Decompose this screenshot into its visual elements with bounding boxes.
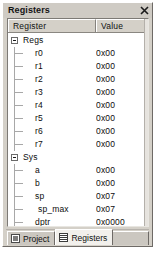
register-row[interactable]: dptr0x0000 bbox=[8, 216, 148, 226]
register-name-cell: r3 bbox=[8, 86, 96, 99]
tab-project-label: Project bbox=[23, 234, 49, 244]
register-name-cell: a bbox=[8, 164, 96, 177]
register-row[interactable]: r00x00 bbox=[8, 47, 148, 60]
register-name-label: a bbox=[35, 164, 40, 177]
tab-registers-label: Registers bbox=[71, 233, 107, 243]
register-row[interactable]: Regs bbox=[8, 34, 148, 47]
register-row[interactable]: a0x00 bbox=[8, 164, 148, 177]
tree-stub-line bbox=[14, 66, 23, 67]
register-row[interactable]: r30x00 bbox=[8, 86, 148, 99]
register-value-cell[interactable]: 0x00 bbox=[96, 86, 148, 99]
register-row[interactable]: r50x00 bbox=[8, 112, 148, 125]
register-name-cell: dptr bbox=[8, 216, 96, 226]
register-row[interactable]: sp_max0x07 bbox=[8, 203, 148, 216]
tree-stub-line bbox=[14, 53, 23, 54]
register-name-label: r4 bbox=[35, 99, 43, 112]
register-name-cell: Sys bbox=[8, 151, 96, 164]
register-name-cell: r1 bbox=[8, 60, 96, 73]
registers-grid: Register Value Regsr00x00r10x00r20x00r30… bbox=[7, 18, 149, 227]
register-value-cell[interactable]: 0x0000 bbox=[96, 216, 148, 226]
panel-tabstrip: Project Registers bbox=[3, 227, 152, 246]
register-row[interactable]: sp0x07 bbox=[8, 190, 148, 203]
panel-title: Registers bbox=[8, 5, 50, 16]
register-name-label: r1 bbox=[35, 60, 43, 73]
register-name-label: Regs bbox=[23, 34, 43, 47]
register-name-label: Sys bbox=[23, 151, 38, 164]
register-name-cell: b bbox=[8, 177, 96, 190]
tree-stub-line bbox=[14, 105, 23, 106]
tree-stub-line bbox=[14, 222, 23, 223]
register-name-cell: r7 bbox=[8, 138, 96, 151]
register-name-cell: r6 bbox=[8, 125, 96, 138]
register-name-label: sp bbox=[35, 190, 44, 203]
register-value-cell[interactable]: 0x07 bbox=[96, 203, 148, 216]
tree-stub-line bbox=[14, 144, 23, 145]
tab-project[interactable]: Project bbox=[7, 231, 55, 245]
vertical-scrollbar[interactable] bbox=[144, 19, 148, 226]
tree-stub-line bbox=[14, 79, 23, 80]
register-name-label: dptr bbox=[35, 216, 50, 226]
minus-box-icon[interactable] bbox=[11, 154, 18, 161]
tree-trunk-line bbox=[14, 216, 15, 226]
tree-stub-line bbox=[14, 92, 23, 93]
register-name-label: b bbox=[35, 177, 40, 190]
register-value-cell[interactable]: 0x00 bbox=[96, 99, 148, 112]
tree-stub-line bbox=[14, 209, 23, 210]
register-name-cell: r5 bbox=[8, 112, 96, 125]
register-name-label: r6 bbox=[35, 125, 43, 138]
panel-titlebar: Registers bbox=[3, 3, 152, 18]
project-window-icon bbox=[11, 234, 20, 243]
tree-stub-line bbox=[14, 183, 23, 184]
column-header-register[interactable]: Register bbox=[8, 19, 96, 32]
tabstrip-filler bbox=[113, 231, 149, 245]
tree-stub-line bbox=[14, 170, 23, 171]
register-name-label: r2 bbox=[35, 73, 43, 86]
register-value-cell[interactable]: 0x07 bbox=[96, 190, 148, 203]
close-icon[interactable] bbox=[138, 5, 150, 17]
register-row[interactable]: r10x00 bbox=[8, 60, 148, 73]
register-row[interactable]: r70x00 bbox=[8, 138, 148, 151]
register-name-label: sp_max bbox=[38, 203, 69, 216]
register-row[interactable]: r20x00 bbox=[8, 73, 148, 86]
register-value-cell[interactable]: 0x00 bbox=[96, 60, 148, 73]
tab-registers[interactable]: Registers bbox=[55, 229, 113, 245]
register-name-cell: r4 bbox=[8, 99, 96, 112]
register-name-label: r7 bbox=[35, 138, 43, 151]
grid-rows: Regsr00x00r10x00r20x00r30x00r40x00r50x00… bbox=[8, 33, 148, 226]
grid-header-row: Register Value bbox=[8, 19, 148, 33]
register-row[interactable]: Sys bbox=[8, 151, 148, 164]
tree-stub-line bbox=[14, 131, 23, 132]
register-name-cell: r2 bbox=[8, 73, 96, 86]
register-row[interactable]: r40x00 bbox=[8, 99, 148, 112]
registers-panel-window: Registers Register Value Regsr00x00r10x0… bbox=[2, 2, 153, 247]
register-value-cell[interactable]: 0x00 bbox=[96, 177, 148, 190]
register-name-cell: Regs bbox=[8, 34, 96, 47]
register-value-cell[interactable]: 0x00 bbox=[96, 47, 148, 60]
register-value-cell[interactable]: 0x00 bbox=[96, 138, 148, 151]
register-name-cell: sp bbox=[8, 190, 96, 203]
registers-grid-icon bbox=[59, 233, 68, 242]
tree-stub-line bbox=[14, 118, 23, 119]
tree-stub-line bbox=[14, 196, 23, 197]
register-value-cell[interactable]: 0x00 bbox=[96, 164, 148, 177]
register-name-cell: sp_max bbox=[8, 203, 96, 216]
register-row[interactable]: r60x00 bbox=[8, 125, 148, 138]
register-value-cell[interactable]: 0x00 bbox=[96, 112, 148, 125]
register-row[interactable]: b0x00 bbox=[8, 177, 148, 190]
minus-box-icon[interactable] bbox=[11, 37, 18, 44]
register-value-cell[interactable]: 0x00 bbox=[96, 73, 148, 86]
register-name-label: r3 bbox=[35, 86, 43, 99]
register-name-label: r0 bbox=[35, 47, 43, 60]
register-value-cell[interactable]: 0x00 bbox=[96, 125, 148, 138]
column-header-value[interactable]: Value bbox=[96, 19, 148, 32]
register-name-label: r5 bbox=[35, 112, 43, 125]
register-name-cell: r0 bbox=[8, 47, 96, 60]
